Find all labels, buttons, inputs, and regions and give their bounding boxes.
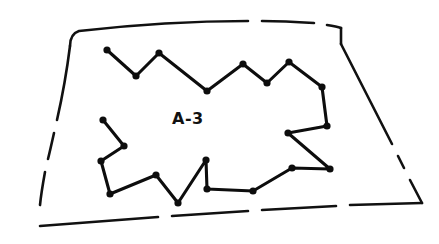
boundary-segment [40, 172, 45, 205]
polygon-vertex [203, 87, 210, 94]
polygon-vertex [239, 60, 246, 67]
polygon-vertex [155, 49, 162, 56]
boundary-segment [398, 156, 404, 168]
boundary-segment [70, 21, 248, 46]
boundary-segment [341, 44, 392, 144]
inner-polygon-group [97, 46, 333, 206]
boundary-segment [327, 25, 341, 28]
dashed-boundary-group [40, 21, 422, 226]
polygon-vertex [285, 58, 292, 65]
polygon-vertex [120, 142, 127, 149]
diagram-svg [0, 0, 439, 244]
polygon-vertex [99, 116, 106, 123]
polygon-vertex [202, 156, 209, 163]
polygon-vertex [203, 185, 210, 192]
boundary-segment [410, 180, 422, 203]
boundary-segment [172, 211, 248, 216]
boundary-segment [40, 217, 158, 226]
polygon-vertex [249, 187, 256, 194]
polygon-vertex [106, 190, 113, 197]
boundary-segment [57, 46, 70, 120]
boundary-segment [262, 206, 336, 210]
polygon-vertex [288, 164, 295, 171]
polygon-vertex [263, 79, 270, 86]
polygon-vertex [132, 72, 139, 79]
boundary-segment [350, 203, 422, 205]
polygon-vertex [318, 83, 325, 90]
figure-canvas: A-3 [0, 0, 439, 244]
polygon-vertex [152, 171, 159, 178]
polygon-vertex [97, 157, 104, 164]
region-label: A-3 [172, 111, 204, 127]
boundary-segment [262, 21, 314, 23]
boundary-segment [48, 133, 54, 159]
polygon-vertex [326, 165, 333, 172]
polygon-vertex [284, 129, 291, 136]
polygon-vertex [103, 46, 110, 53]
polygon-vertex [323, 122, 330, 129]
polygon-vertex [174, 199, 181, 206]
